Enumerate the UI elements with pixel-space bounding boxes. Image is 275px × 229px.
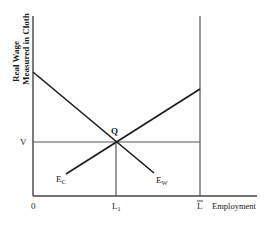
employment-l1-label: L1: [112, 201, 121, 212]
curve-ew: [33, 72, 154, 173]
y-axis-label-line2: Measured in Cloth: [21, 13, 31, 85]
origin-label: 0: [31, 201, 36, 211]
curve-ew-label: EW: [156, 175, 169, 186]
labor-total-label: L: [197, 201, 203, 211]
equilibrium-label: Q: [111, 126, 118, 136]
y-axis-label-line1: Real Wage: [11, 41, 21, 82]
x-axis-label: Employment: [212, 201, 257, 211]
curve-ec: [66, 89, 200, 174]
wage-label: V: [20, 137, 27, 147]
curve-ec-label: EC: [56, 174, 66, 185]
diagram-canvas: Real Wage Measured in Cloth V Q 0 EC EW …: [0, 0, 275, 229]
